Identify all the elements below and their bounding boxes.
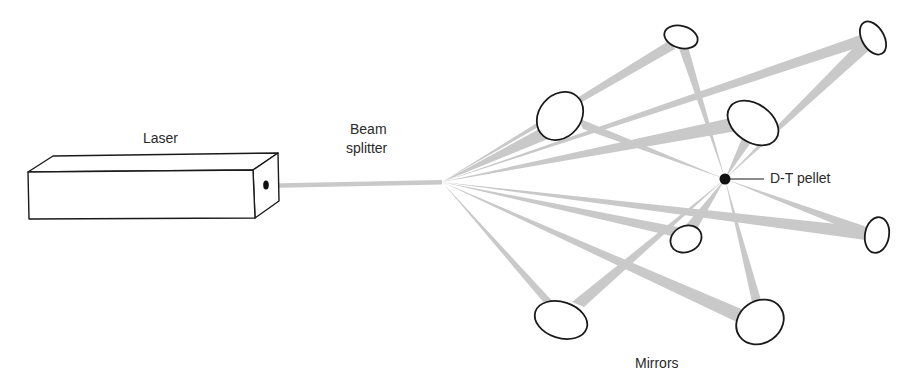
mirrors-label: Mirrors [635, 355, 679, 372]
mirror-d [719, 91, 787, 154]
fusion-laser-diagram [0, 0, 919, 385]
beam-to-mirror-g [442, 182, 556, 305]
laser-top-face [28, 153, 278, 172]
beam-to-mirror-a [442, 128, 548, 182]
laser-aperture-icon [263, 181, 269, 190]
pellet-label: D-T pellet [770, 170, 830, 187]
reflect-mirror-h [725, 179, 761, 302]
dt-pellet [720, 174, 731, 185]
laser-label: Laser [143, 130, 178, 147]
laser-box [28, 153, 279, 219]
mirror-h [727, 290, 792, 353]
beam-splitter-label-line1: Beam [350, 121, 387, 138]
beam-to-mirror-h [442, 182, 746, 324]
beam-splitter-label-line2: splitter [346, 140, 387, 157]
laser-front-face [28, 170, 255, 219]
reflect-mirror-b [676, 39, 725, 179]
reflect-mirror-g [572, 179, 725, 307]
main-laser-beam [268, 180, 442, 188]
mirror-f [862, 215, 892, 255]
